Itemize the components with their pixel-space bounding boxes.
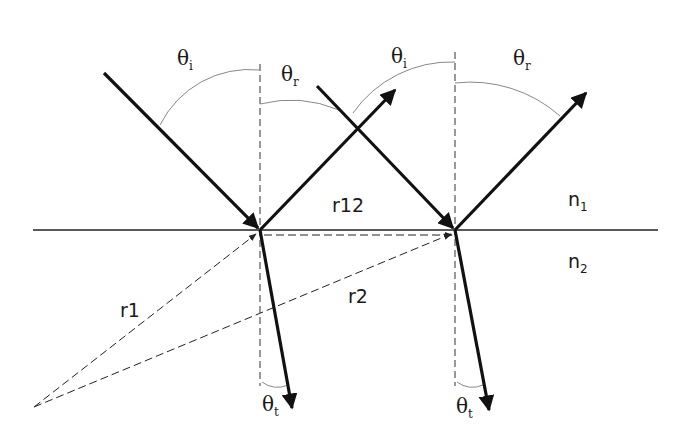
arc-theta-t-1 bbox=[262, 382, 288, 387]
reflected-ray-1 bbox=[260, 90, 395, 230]
label-theta-r-1: θr bbox=[281, 64, 299, 88]
label-r12: r12 bbox=[332, 196, 364, 215]
label-r1: r1 bbox=[120, 301, 140, 320]
arc-theta-t-2 bbox=[457, 382, 483, 387]
vector-r2 bbox=[34, 234, 451, 407]
optics-diagram: θi θr θi θr θt θt r12 r1 r2 n1 n2 bbox=[0, 0, 686, 444]
diagram-canvas bbox=[0, 0, 686, 444]
transmitted-ray-2 bbox=[455, 230, 489, 410]
vector-r1 bbox=[34, 234, 256, 407]
label-n2: n2 bbox=[568, 252, 588, 275]
arc-theta-i-1 bbox=[160, 69, 260, 125]
label-n1: n1 bbox=[568, 190, 588, 213]
label-theta-t-2: θt bbox=[456, 396, 473, 420]
label-theta-r-2: θr bbox=[513, 48, 531, 72]
label-theta-i-2: θi bbox=[391, 46, 407, 70]
arc-theta-r-2 bbox=[455, 82, 560, 116]
reflected-ray-2 bbox=[455, 93, 586, 230]
arc-theta-r-1 bbox=[260, 100, 339, 110]
transmitted-ray-1 bbox=[260, 230, 292, 408]
label-theta-t-1: θt bbox=[262, 394, 279, 418]
label-theta-i-1: θi bbox=[177, 48, 193, 72]
label-r2: r2 bbox=[348, 287, 368, 306]
